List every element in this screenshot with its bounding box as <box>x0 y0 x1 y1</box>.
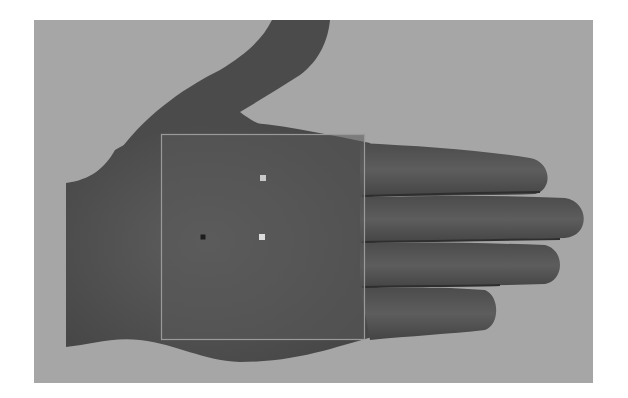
ring-finger <box>360 243 560 288</box>
marker-dark[interactable] <box>201 235 206 240</box>
marker-top[interactable] <box>260 175 266 181</box>
index-finger <box>360 143 548 197</box>
pinky-finger <box>360 287 496 340</box>
hand-scene <box>0 0 628 398</box>
marker-center[interactable] <box>259 234 265 240</box>
middle-finger <box>360 196 584 243</box>
